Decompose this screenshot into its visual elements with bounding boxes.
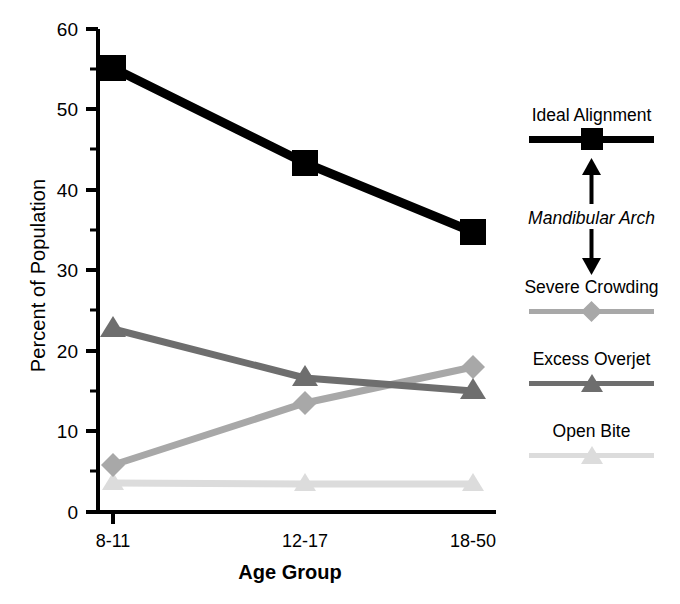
legend-swatch-open-bite xyxy=(503,442,680,468)
legend-entry-excess-overjet[interactable]: Excess Overjet xyxy=(503,349,680,396)
axis-lines xyxy=(98,29,496,512)
y-tick-label-0: 0 xyxy=(28,503,78,522)
x-tick-label-12-17: 12-17 xyxy=(245,532,365,550)
series-open-bite xyxy=(102,472,484,491)
y-tick-label-10: 10 xyxy=(28,422,78,441)
legend-entry-severe-crowding[interactable]: Severe Crowding xyxy=(503,277,680,324)
diamond-marker-icon xyxy=(581,300,602,321)
legend-label-ideal-alignment: Ideal Alignment xyxy=(503,105,680,126)
y-tick-label-60: 60 xyxy=(28,20,78,39)
y-tick-label-50: 50 xyxy=(28,100,78,119)
square-marker-icon xyxy=(581,128,603,150)
chart-container: 60 50 40 30 20 10 0 8-11 12-17 18-50 Per… xyxy=(0,0,680,604)
triangle-marker-icon xyxy=(581,446,603,464)
series-excess-overjet xyxy=(100,316,486,399)
triangle-marker-icon xyxy=(581,374,603,392)
legend-swatch-ideal-alignment xyxy=(503,126,680,152)
legend-annotation-mandibular-arch: Mandibular Arch xyxy=(503,208,680,229)
series-ideal-alignment xyxy=(100,55,486,245)
mandibular-arch-annotation-group: Mandibular Arch xyxy=(503,158,680,279)
legend-label-excess-overjet: Excess Overjet xyxy=(503,349,680,370)
legend-entry-open-bite[interactable]: Open Bite xyxy=(503,421,680,468)
x-tick-label-8-11: 8-11 xyxy=(53,532,173,550)
x-tick-label-18-50: 18-50 xyxy=(413,532,533,550)
legend-label-open-bite: Open Bite xyxy=(503,421,680,442)
legend-swatch-excess-overjet xyxy=(503,370,680,396)
legend-label-severe-crowding: Severe Crowding xyxy=(503,277,680,298)
x-axis-title: Age Group xyxy=(90,561,490,584)
y-axis-title: Percent of Population xyxy=(27,146,50,406)
legend-entry-ideal-alignment[interactable]: Ideal Alignment xyxy=(503,105,680,152)
arrow-up-icon xyxy=(503,158,680,204)
arrow-down-icon xyxy=(503,229,680,275)
legend-swatch-severe-crowding xyxy=(503,298,680,324)
